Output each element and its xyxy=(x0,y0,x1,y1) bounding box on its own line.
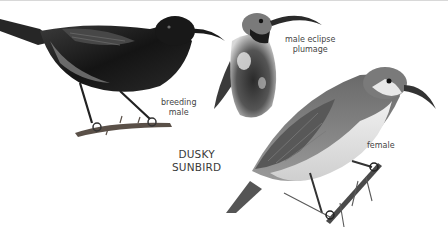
male-eclipse-illustration xyxy=(214,13,322,118)
field-guide-plate: breeding male male eclipse plumage femal… xyxy=(0,0,448,235)
bird-illustrations xyxy=(0,1,448,235)
breeding-male-illustration xyxy=(0,16,225,137)
species-title: DUSKY SUNBIRD xyxy=(172,148,221,174)
female-label: female xyxy=(367,141,395,151)
male-eclipse-label: male eclipse plumage xyxy=(285,35,335,55)
breeding-male-label: breeding male xyxy=(161,98,196,118)
